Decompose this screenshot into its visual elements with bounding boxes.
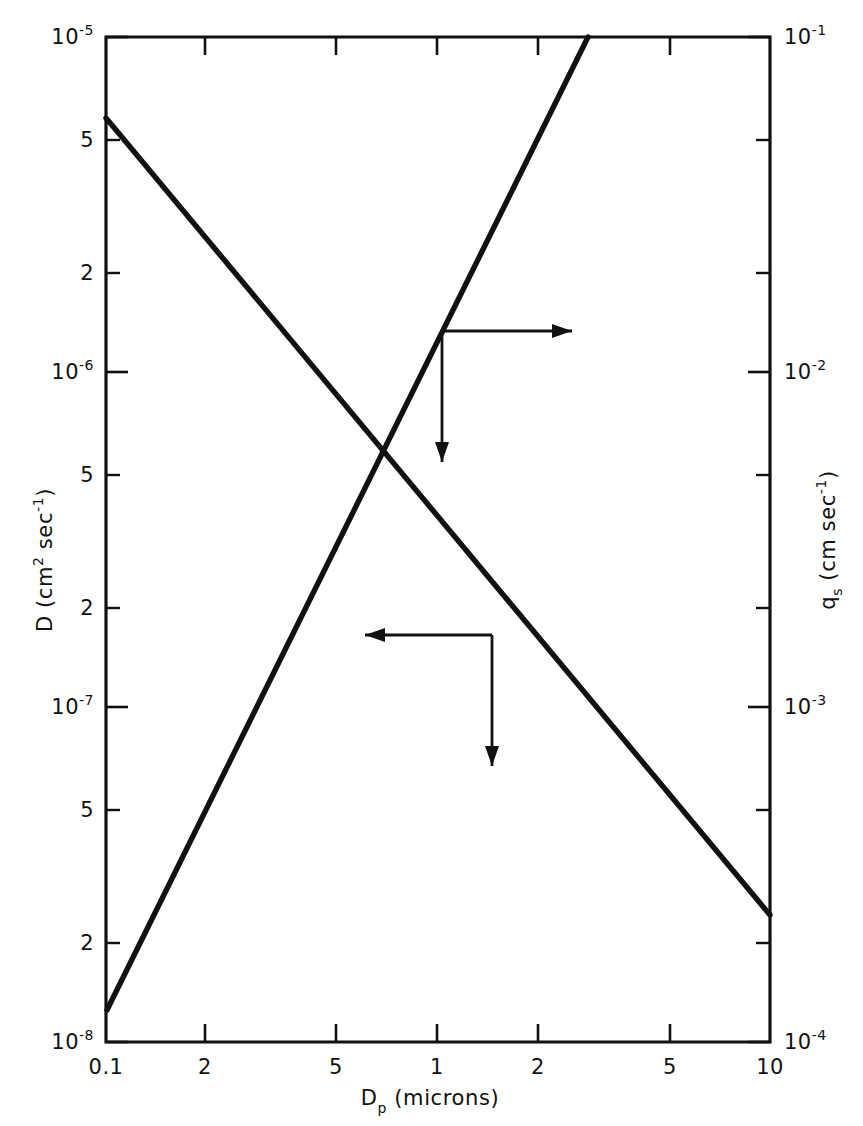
right-tick-label: 10-3 xyxy=(784,692,827,719)
left-axis-tick-labels: 10-55210-65210-75210-8 xyxy=(51,22,94,1054)
plot-frame xyxy=(106,37,770,1042)
right-tick-label: 10-4 xyxy=(784,1027,827,1054)
left-tick-label: 2 xyxy=(80,261,94,285)
left-tick-label: 2 xyxy=(80,596,94,620)
left-tick-label: 5 xyxy=(80,463,94,487)
x-tick-label: 5 xyxy=(329,1055,343,1079)
arrow-head-icon xyxy=(365,628,385,642)
figure-root: 10-55210-65210-75210-8 10-110-210-310-4 … xyxy=(0,0,863,1126)
x-axis-title: Dp (microns) xyxy=(361,1086,499,1116)
arrow-head-icon xyxy=(435,442,449,462)
svg-text:qs (cm sec-1): qs (cm sec-1) xyxy=(813,470,845,610)
svg-text:Dp (microns): Dp (microns) xyxy=(361,1086,499,1116)
x-tick-label: 2 xyxy=(198,1055,212,1079)
x-axis-tick-labels: 0.12512510 xyxy=(89,1055,784,1079)
x-tick-label: 5 xyxy=(663,1055,677,1079)
x-tick-label: 10 xyxy=(756,1055,784,1079)
y-axis-right-title: qs (cm sec-1) xyxy=(813,470,845,610)
left-tick-label: 10-7 xyxy=(51,692,94,719)
left-axis-ticks xyxy=(106,37,128,1042)
left-tick-label: 10-6 xyxy=(51,357,94,384)
svg-text:D (cm2 sec-1): D (cm2 sec-1) xyxy=(30,488,57,632)
right-tick-label: 10-1 xyxy=(784,22,827,49)
x-tick-label: 2 xyxy=(531,1055,545,1079)
chart-canvas: 10-55210-65210-75210-8 10-110-210-310-4 … xyxy=(0,0,863,1126)
left-tick-label: 5 xyxy=(80,798,94,822)
data-series-group xyxy=(106,37,770,1010)
left-tick-label: 10-5 xyxy=(51,22,94,49)
x-tick-label: 1 xyxy=(430,1055,444,1079)
frame-border xyxy=(106,37,770,1042)
y-axis-left-title: D (cm2 sec-1) xyxy=(30,488,57,632)
left-tick-label: 5 xyxy=(80,128,94,152)
arrow-head-icon xyxy=(485,746,499,766)
right-tick-label: 10-2 xyxy=(784,357,827,384)
x-tick-label: 0.1 xyxy=(89,1055,124,1079)
left-tick-label: 10-8 xyxy=(51,1027,94,1054)
x-axis-ticks xyxy=(205,37,670,1042)
data-curve xyxy=(107,37,588,1010)
annotation-group xyxy=(365,324,572,766)
data-curve xyxy=(106,118,770,915)
left-tick-label: 2 xyxy=(80,931,94,955)
arrow-head-icon xyxy=(552,324,572,338)
